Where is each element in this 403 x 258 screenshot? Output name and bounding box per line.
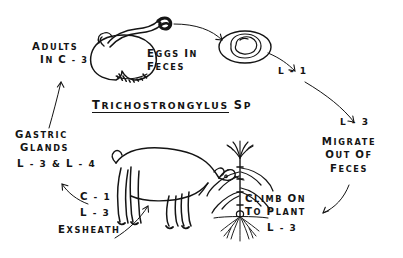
adult-worms xyxy=(100,18,170,47)
label-climb-line3: L - 3 xyxy=(267,221,306,235)
arrow-l1-to-l3 xyxy=(305,82,354,122)
label-migrate-line1: Migrate xyxy=(305,135,393,148)
label-adults-line1: Adults xyxy=(32,40,89,53)
page-title: TrichostrongylusSp xyxy=(92,98,252,113)
label-exsheath-line3: Exsheath xyxy=(58,223,121,236)
label-adults-line2: In C - 3 xyxy=(40,53,89,66)
label-migrate-line3: Feces xyxy=(305,162,393,175)
label-climb-line2: To Plant xyxy=(245,205,306,218)
label-exsheath-group: C - 1 L - 3 Exsheath xyxy=(58,190,121,236)
title-species: Sp xyxy=(234,100,252,111)
label-gastric-glands: Gastric Glands L - 3 & L - 4 xyxy=(15,128,96,171)
label-exsheath-line1: C - 1 xyxy=(80,190,121,204)
label-exsheath-line2: L - 3 xyxy=(80,206,121,220)
ruminant-figure xyxy=(112,148,244,229)
label-migrate-line2: Out Of xyxy=(305,148,393,161)
egg-figure xyxy=(219,31,271,63)
label-eggs-line1: Eggs In xyxy=(147,47,198,60)
label-adults: Adults In C - 3 xyxy=(32,40,89,67)
label-climb-on-to-plant: Climb On To Plant L - 3 xyxy=(245,192,306,235)
label-gastric-line2: Glands xyxy=(20,141,96,154)
label-migrate-out-of-feces: Migrate Out Of Feces xyxy=(305,135,393,175)
label-eggs-line2: Feces xyxy=(147,60,198,73)
label-gastric-line3: L - 3 & L - 4 xyxy=(17,157,96,171)
label-gastric-line1: Gastric xyxy=(15,128,96,141)
label-climb-line1: Climb On xyxy=(245,192,306,205)
label-l3-right: L - 3 xyxy=(340,117,370,129)
title-genus: Trichostrongylus xyxy=(92,100,229,113)
arrow-worm-to-egg xyxy=(174,24,222,40)
label-l1: L - 1 xyxy=(278,66,308,78)
arrow-gastric-to-adults xyxy=(49,82,64,128)
label-eggs: Eggs In Feces xyxy=(147,47,198,74)
life-cycle-diagram: Adults In C - 3 Eggs In Feces Trichostro… xyxy=(0,0,403,258)
arrow-feces-to-plant xyxy=(323,185,349,213)
